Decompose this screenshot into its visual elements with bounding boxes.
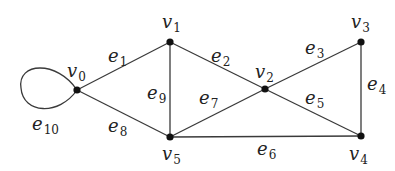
edge-label-subscript: 8 (120, 125, 128, 139)
edge-label-base: e (32, 113, 43, 134)
edge-label-e1: e1 (108, 45, 127, 69)
edge-label-e8: e8 (108, 115, 127, 139)
node-label-base: v (162, 11, 172, 32)
node-label-base: v (255, 61, 265, 82)
node-v3 (357, 38, 364, 45)
edge-label-subscript: 4 (379, 83, 387, 97)
node-label-subscript: 2 (266, 71, 274, 85)
edge-label-e10: e10 (32, 113, 59, 137)
node-v0 (73, 86, 80, 93)
edge-label-subscript: 10 (44, 123, 59, 137)
edge-label-subscript: 9 (159, 92, 167, 106)
node-label-v3: v3 (351, 11, 370, 35)
edge-label-base: e (108, 45, 119, 66)
node-label-base: v (67, 60, 77, 81)
node-label-base: v (162, 143, 172, 164)
edge-label-base: e (305, 37, 316, 58)
node-label-v0: v0 (67, 60, 86, 84)
edge-label-e3: e3 (305, 37, 324, 61)
node-v1 (166, 38, 173, 45)
edge-label-base: e (211, 45, 222, 66)
node-label-v1: v1 (162, 11, 181, 35)
edge-label-subscript: 7 (211, 97, 219, 111)
edge-label-base: e (305, 87, 316, 108)
edge-label-e9: e9 (147, 82, 166, 106)
node-label-subscript: 0 (78, 70, 86, 84)
edge-label-e6: e6 (257, 138, 276, 162)
node-v2 (261, 85, 268, 92)
node-label-subscript: 3 (362, 21, 370, 35)
edge-label-subscript: 3 (317, 47, 325, 61)
labels-layer: e1e2e3e4e5e6e7e8e9e10v0v1v2v3v4v5 (32, 11, 387, 167)
node-v5 (166, 133, 173, 140)
edge-label-base: e (257, 138, 268, 159)
node-label-base: v (349, 143, 359, 164)
node-label-base: v (351, 11, 361, 32)
edge-label-base: e (199, 87, 210, 108)
edge-label-subscript: 1 (120, 55, 128, 69)
edge-label-e2: e2 (211, 45, 230, 69)
graph-diagram: e1e2e3e4e5e6e7e8e9e10v0v1v2v3v4v5 (0, 0, 395, 171)
edge-label-subscript: 5 (317, 97, 325, 111)
edge-label-base: e (108, 115, 119, 136)
edge-label-e7: e7 (199, 87, 218, 111)
edge-label-subscript: 2 (223, 55, 231, 69)
node-label-subscript: 5 (173, 153, 181, 167)
node-label-v2: v2 (255, 61, 274, 85)
edge-label-base: e (367, 73, 378, 94)
node-label-v5: v5 (162, 143, 181, 167)
edge-label-e4: e4 (367, 73, 387, 97)
edge-label-e5: e5 (305, 87, 324, 111)
node-label-v4: v4 (349, 143, 368, 167)
node-label-subscript: 1 (173, 21, 181, 35)
node-label-subscript: 4 (360, 153, 368, 167)
edge-e6 (170, 136, 361, 137)
edge-label-base: e (147, 82, 158, 103)
node-v4 (357, 132, 364, 139)
edge-label-subscript: 6 (269, 148, 277, 162)
